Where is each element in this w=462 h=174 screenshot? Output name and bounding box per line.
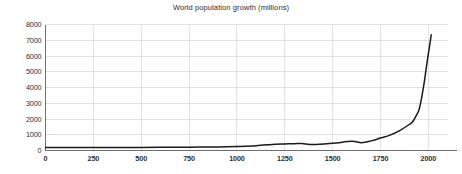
chart-container: World population growth (millions) 01000… [0,0,462,174]
y-tick-label-7000: 7000 [26,36,42,45]
y-tick-label-5000: 5000 [26,67,42,76]
x-tick-label-500: 500 [135,154,147,163]
x-tick-label-1250: 1250 [277,154,293,163]
x-axis-tick-labels: 025050075010001250150017502000 [44,154,437,163]
y-tick-label-3000: 3000 [26,99,42,108]
x-tick-label-1750: 1750 [373,154,389,163]
population-series-line [46,35,432,148]
y-tick-label-6000: 6000 [26,52,42,61]
x-tick-label-1500: 1500 [325,154,341,163]
x-tick-label-750: 750 [183,154,195,163]
y-axis-tick-labels: 010002000300040005000600070008000 [26,20,42,155]
x-tick-label-2000: 2000 [421,154,437,163]
line-chart-plot: 010002000300040005000600070008000 025050… [0,0,462,174]
x-tick-label-250: 250 [88,154,100,163]
x-tick-label-0: 0 [44,154,48,163]
y-tick-label-1000: 1000 [26,130,42,139]
x-tick-label-1000: 1000 [229,154,245,163]
y-tick-label-8000: 8000 [26,20,42,29]
y-tick-label-4000: 4000 [26,83,42,92]
y-tick-label-2000: 2000 [26,115,42,124]
horizontal-gridlines [46,25,448,135]
y-tick-label-0: 0 [38,146,42,155]
